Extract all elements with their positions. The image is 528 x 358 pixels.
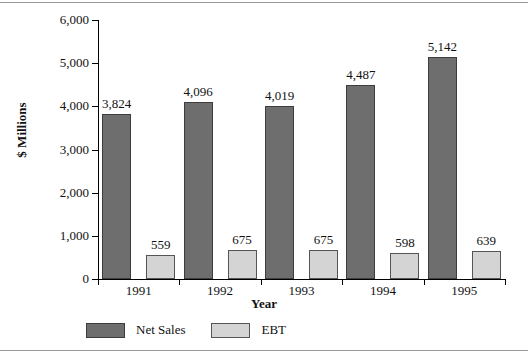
y-axis-tick-label: 2,000 <box>60 185 89 201</box>
x-axis-tick <box>505 279 506 285</box>
y-axis-tick-label: 1,000 <box>60 228 89 244</box>
y-axis-title: $ Millions <box>14 102 30 157</box>
y-axis-tick-label: 3,000 <box>60 142 89 158</box>
bar-net-sales-1992: 4,096 <box>184 102 213 279</box>
bar-ebt-1991: 559 <box>146 255 175 279</box>
bar-net-sales-1993: 4,019 <box>265 106 294 279</box>
legend-swatch-icon <box>211 323 250 338</box>
y-axis-tick <box>92 279 98 280</box>
chart-figure: $ Millions Year 01,0002,0003,0004,0005,0… <box>0 0 528 358</box>
x-axis-category-label: 1993 <box>289 283 315 299</box>
x-axis-tick <box>261 279 262 285</box>
y-axis-tick <box>92 236 98 237</box>
bar-net-sales-1995: 5,142 <box>428 57 457 279</box>
x-axis-tick <box>179 279 180 285</box>
bar-value-label: 559 <box>151 237 171 253</box>
y-axis-tick <box>92 106 98 107</box>
x-axis-category-label: 1991 <box>126 283 152 299</box>
legend-swatch-icon <box>86 323 125 338</box>
legend-item-net-sales[interactable]: Net Sales <box>86 322 185 338</box>
y-axis-tick-label: 0 <box>83 271 90 287</box>
y-axis-tick-label: 6,000 <box>60 12 89 28</box>
plot-area: 01,0002,0003,0004,0005,0006,0003,8245594… <box>98 20 505 279</box>
bottom-divider-rule <box>0 350 528 351</box>
bar-value-label: 639 <box>477 233 497 249</box>
x-axis-category-label: 1995 <box>451 283 477 299</box>
bar-value-label: 3,824 <box>102 96 131 112</box>
bar-value-label: 5,142 <box>428 39 457 55</box>
bar-value-label: 675 <box>314 232 334 248</box>
bar-net-sales-1994: 4,487 <box>346 85 375 279</box>
legend-item-ebt[interactable]: EBT <box>211 322 286 338</box>
x-axis-line <box>98 279 506 280</box>
bar-ebt-1992: 675 <box>228 250 257 279</box>
bar-value-label: 4,019 <box>265 88 294 104</box>
bar-ebt-1993: 675 <box>309 250 338 279</box>
y-axis-tick-label: 4,000 <box>60 98 89 114</box>
chart-legend: Net SalesEBT <box>86 322 286 338</box>
x-axis-tick <box>342 279 343 285</box>
bar-value-label: 4,096 <box>183 84 212 100</box>
bar-net-sales-1991: 3,824 <box>102 114 131 279</box>
x-axis-category-label: 1992 <box>207 283 233 299</box>
bar-value-label: 675 <box>232 232 252 248</box>
legend-label: EBT <box>261 322 286 338</box>
x-axis-tick <box>424 279 425 285</box>
y-axis-tick <box>92 150 98 151</box>
legend-label: Net Sales <box>136 322 185 338</box>
bar-value-label: 4,487 <box>346 67 375 83</box>
bar-ebt-1995: 639 <box>472 251 501 279</box>
x-axis-title: Year <box>0 296 528 312</box>
y-axis-tick <box>92 63 98 64</box>
bar-ebt-1994: 598 <box>390 253 419 279</box>
x-axis-category-label: 1994 <box>370 283 396 299</box>
y-axis-tick-label: 5,000 <box>60 55 89 71</box>
y-axis-tick <box>92 193 98 194</box>
x-axis-tick <box>98 279 99 285</box>
bar-value-label: 598 <box>395 235 415 251</box>
top-divider-rule <box>0 2 528 3</box>
y-axis-tick <box>92 20 98 21</box>
